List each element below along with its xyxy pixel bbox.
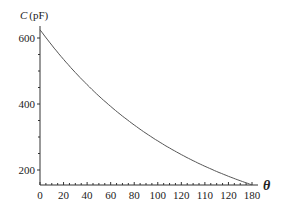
- y-tick-label: 200: [19, 164, 36, 176]
- chart-canvas: 600400200 020406080100120110120180 C(pF)…: [0, 0, 284, 214]
- x-tick-label: 40: [82, 189, 94, 201]
- x-tick-label: 0: [37, 189, 43, 201]
- y-axis-title: C(pF): [20, 9, 49, 22]
- x-tick-label: 120: [173, 189, 190, 201]
- x-tick-label: 120: [220, 189, 237, 201]
- y-axis: 600400200: [19, 26, 41, 185]
- x-axis-title: θ: [263, 178, 271, 193]
- y-tick-label: 400: [19, 98, 36, 110]
- x-tick-label: 20: [58, 189, 70, 201]
- x-tick-label: 60: [105, 189, 117, 201]
- x-tick-label: 180: [244, 189, 261, 201]
- x-tick-label: 80: [129, 189, 141, 201]
- y-tick-label: 600: [19, 32, 36, 44]
- capacitance-curve: [40, 30, 252, 185]
- x-tick-label: 100: [150, 189, 167, 201]
- x-tick-label: 110: [197, 189, 214, 201]
- x-axis: 020406080100120110120180: [37, 182, 261, 201]
